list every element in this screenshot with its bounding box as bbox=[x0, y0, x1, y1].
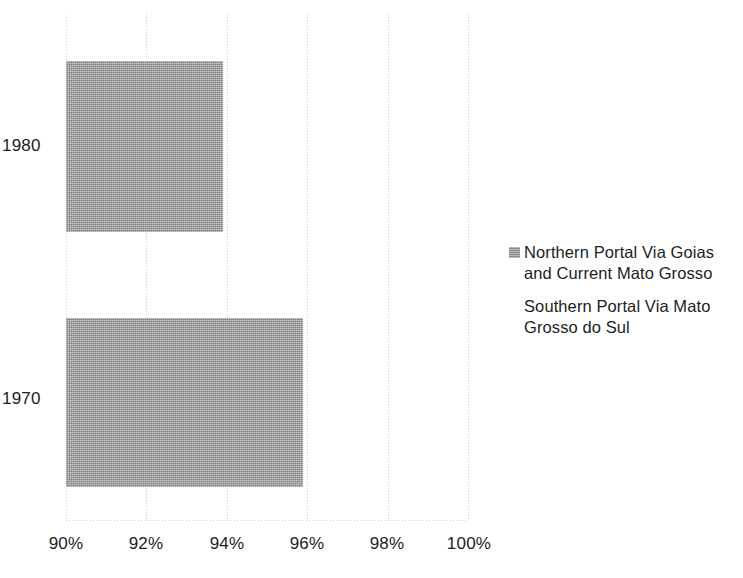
chart-legend: Northern Portal Via Goias and Current Ma… bbox=[509, 242, 737, 350]
y-tick-label-1970: 1970 bbox=[2, 389, 58, 409]
legend-label-southern-portal: Southern Portal Via Mato Grosso do Sul bbox=[524, 296, 710, 338]
gridline-96 bbox=[307, 14, 308, 520]
gridline-100 bbox=[468, 14, 469, 520]
legend-label-line-1: Southern Portal Via Mato bbox=[524, 297, 710, 315]
legend-entry-northern-portal: Northern Portal Via Goias and Current Ma… bbox=[509, 242, 737, 284]
legend-label-northern-portal: Northern Portal Via Goias and Current Ma… bbox=[524, 242, 714, 284]
x-tick-label-98: 98% bbox=[342, 534, 432, 554]
x-tick-label-94: 94% bbox=[182, 534, 272, 554]
x-tick-label-90: 90% bbox=[21, 534, 111, 554]
gridline-98 bbox=[388, 14, 389, 520]
legend-entry-southern-portal: Southern Portal Via Mato Grosso do Sul bbox=[509, 296, 737, 338]
x-tick-label-100: 100% bbox=[424, 534, 514, 554]
bar-chart-figure: 1980 1970 90% 92% 94% 96% 98% 100% North… bbox=[0, 0, 743, 578]
legend-swatch-icon-northern-portal bbox=[509, 247, 520, 258]
legend-label-line-2: Grosso do Sul bbox=[524, 318, 630, 336]
legend-label-line-1: Northern Portal Via Goias bbox=[524, 243, 714, 261]
legend-label-line-2: and Current Mato Grosso bbox=[524, 264, 712, 282]
bar-1980-northern-portal bbox=[66, 61, 223, 232]
plot-area bbox=[66, 14, 468, 520]
x-axis-line bbox=[66, 520, 468, 521]
legend-swatch-icon-southern-portal bbox=[509, 301, 520, 312]
x-tick-label-92: 92% bbox=[101, 534, 191, 554]
y-tick-label-1980: 1980 bbox=[2, 136, 58, 156]
x-tick-label-96: 96% bbox=[262, 534, 352, 554]
bar-1970-northern-portal bbox=[66, 318, 303, 487]
